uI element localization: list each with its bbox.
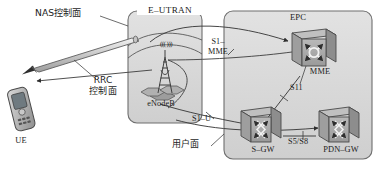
node-label-ue: UE (7, 136, 35, 145)
node-ue-icon (6, 86, 36, 132)
plane-label-user: 用户面 (172, 140, 199, 150)
interface-label-s1-mme-line1: S1– (203, 38, 233, 47)
interface-label-s1-u: S1–U (192, 115, 211, 124)
interface-label-s1-mme-line2: MME (200, 48, 236, 57)
plane-label-rrc-line1: RRC (86, 76, 120, 86)
nas-control-plane-tube (22, 36, 139, 74)
region-title-e-utran: E–UTRAN (137, 5, 203, 15)
region-title-epc: EPC (280, 13, 316, 22)
plane-label-nas: NAS控制面 (35, 8, 82, 18)
interface-label-s5-s8: S5/S8 (288, 138, 308, 147)
node-label-pdngw: PDN–GW (315, 145, 367, 154)
interface-label-s11: S11 (290, 84, 303, 93)
nas-leader-line (100, 16, 128, 26)
node-label-sgw: S–GW (243, 145, 283, 154)
radio-signal-icon: ((( ))) (148, 41, 184, 49)
user-plane-leader-line (211, 134, 224, 146)
node-label-mme: MME (303, 67, 337, 76)
node-label-enodeb: eNodeB (138, 100, 184, 109)
plane-label-rrc-line2: 控制面 (82, 87, 124, 97)
network-architecture-diagram: E–UTRAN EPC UE eNodeB MME S–GW PDN–GW ((… (0, 0, 379, 175)
